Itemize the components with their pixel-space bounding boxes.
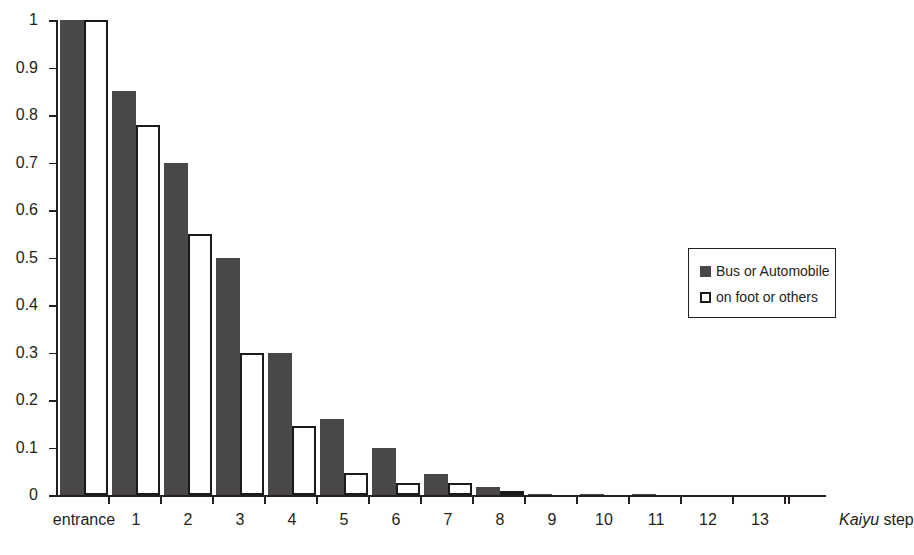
y-tick-label: 0.4 [16, 296, 38, 314]
legend-label-bus-or-automobile: Bus or Automobile [716, 263, 830, 279]
x-axis-title-rest: step [883, 511, 913, 528]
y-tick: 0.3 [49, 353, 56, 355]
x-tick [316, 497, 318, 504]
x-tick-label: 12 [699, 511, 717, 529]
y-tick-label: 0.6 [16, 201, 38, 219]
bar-on-foot-or-others-6 [396, 483, 420, 496]
x-tick-label: 5 [340, 511, 349, 529]
x-tick-label: 7 [444, 511, 453, 529]
bar-bus-or-automobile-1 [112, 91, 136, 495]
y-tick: 0.8 [49, 115, 56, 117]
bar-bus-or-automobile-10 [580, 494, 604, 496]
y-tick: 0 [49, 495, 56, 497]
bar-bus-or-automobile-11 [632, 494, 656, 496]
x-tick [160, 497, 162, 504]
x-tick [472, 497, 474, 504]
x-tick-label: 8 [496, 511, 505, 529]
x-tick [212, 497, 214, 504]
bar-on-foot-or-others-7 [448, 483, 472, 495]
bar-on-foot-or-others-3 [240, 353, 264, 496]
x-tick-label: 13 [751, 511, 769, 529]
bar-bus-or-automobile-7 [424, 474, 448, 495]
y-tick: 0.4 [49, 305, 56, 307]
bar-bus-or-automobile-3 [216, 258, 240, 496]
x-tick [108, 497, 110, 504]
bar-on-foot-or-others-entrance [84, 20, 108, 495]
y-tick-label: 0.1 [16, 438, 38, 456]
y-tick-label: 0.2 [16, 391, 38, 409]
x-tick-label: 9 [548, 511, 557, 529]
x-tick-label: 1 [132, 511, 141, 529]
legend-swatch-outlined-square-icon [700, 292, 711, 303]
bar-on-foot-or-others-4 [292, 426, 316, 495]
x-tick-label: 4 [288, 511, 297, 529]
legend-item-on-foot-or-others: on foot or others [700, 284, 835, 310]
y-tick: 0.1 [49, 448, 56, 450]
bar-on-foot-or-others-5 [344, 473, 368, 495]
x-tick-label: 11 [648, 511, 665, 529]
bar-on-foot-or-others-8 [500, 491, 524, 495]
x-tick [368, 497, 370, 504]
y-tick-label: 0.3 [16, 343, 38, 361]
x-tick-label: 10 [595, 511, 613, 529]
x-axis-title-italic: Kaiyu [839, 511, 879, 528]
y-tick: 0.9 [49, 68, 56, 70]
x-tick [680, 497, 682, 504]
y-axis-line [56, 20, 58, 497]
x-tick [524, 497, 526, 504]
y-tick: 0.7 [49, 163, 56, 165]
bar-bus-or-automobile-4 [268, 353, 292, 496]
x-axis-title: Kaiyu step [839, 511, 914, 529]
x-axis-line [56, 495, 826, 497]
x-tick-label: entrance [53, 511, 115, 529]
x-tick [576, 497, 578, 504]
x-tick [264, 497, 266, 504]
legend-swatch-filled-square-icon [700, 266, 711, 277]
y-tick: 0.5 [49, 258, 56, 260]
bar-bus-or-automobile-6 [372, 448, 396, 496]
bar-bus-or-automobile-entrance [60, 20, 84, 495]
y-tick: 0.2 [49, 400, 56, 402]
legend-item-bus-or-automobile: Bus or Automobile [700, 258, 835, 284]
bar-bus-or-automobile-5 [320, 419, 344, 495]
x-tick-label: 2 [184, 511, 193, 529]
x-tick [784, 497, 786, 504]
y-tick-label: 0.9 [16, 58, 38, 76]
x-tick [732, 497, 734, 504]
bar-on-foot-or-others-2 [188, 234, 212, 495]
bar-bus-or-automobile-8 [476, 487, 500, 495]
x-tick [420, 497, 422, 504]
x-axis-end-tick [788, 497, 790, 504]
legend-label-on-foot-or-others: on foot or others [716, 289, 818, 305]
bar-bus-or-automobile-2 [164, 163, 188, 496]
y-tick-label: 0.5 [16, 248, 38, 266]
x-tick-label: 6 [392, 511, 401, 529]
bar-on-foot-or-others-1 [136, 125, 160, 496]
y-tick: 0.6 [49, 210, 56, 212]
legend-box: Bus or Automobile on foot or others [688, 248, 836, 318]
y-tick-label: 0.7 [16, 153, 38, 171]
x-tick-label: 3 [236, 511, 245, 529]
bar-bus-or-automobile-9 [528, 494, 552, 496]
y-tick-label: 0.8 [16, 106, 38, 124]
y-tick: 1 [49, 20, 56, 22]
y-tick-label: 0 [29, 486, 38, 504]
x-tick [628, 497, 630, 504]
y-tick-label: 1 [29, 11, 38, 29]
